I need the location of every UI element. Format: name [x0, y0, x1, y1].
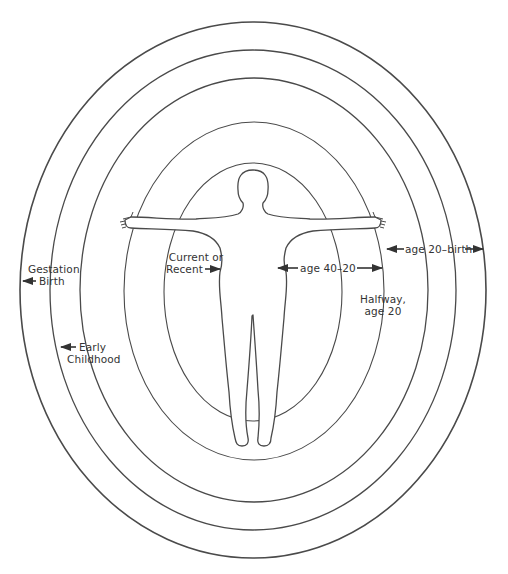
label-current: Current or: [168, 251, 224, 263]
label-childhood: Childhood: [67, 353, 121, 365]
label-birth: Birth: [39, 275, 65, 287]
label-halfway-line2: age 20: [359, 305, 407, 317]
label-birth-line2: Birth: [39, 275, 65, 287]
label-recent: Recent: [166, 263, 203, 275]
label-gestation: Gestation: [28, 263, 80, 275]
label-age-40-20: age 40–20: [300, 262, 356, 274]
label-gestation-line1: Gestation: [28, 263, 80, 275]
label-early: Early: [79, 341, 106, 353]
label-age-20-birth: age 20–birth: [405, 243, 465, 255]
human-figure-outline: [120, 170, 386, 446]
label-halfway: Halfway, age 20: [359, 293, 407, 317]
label-childhood-line2: Childhood: [67, 353, 121, 365]
label-halfway-line1: Halfway,: [359, 293, 407, 305]
label-current-line1: Current or: [168, 251, 224, 263]
time-rings-diagram: [0, 0, 508, 574]
label-early-line1: Early: [79, 341, 106, 353]
label-recent-line2: Recent: [166, 263, 203, 275]
